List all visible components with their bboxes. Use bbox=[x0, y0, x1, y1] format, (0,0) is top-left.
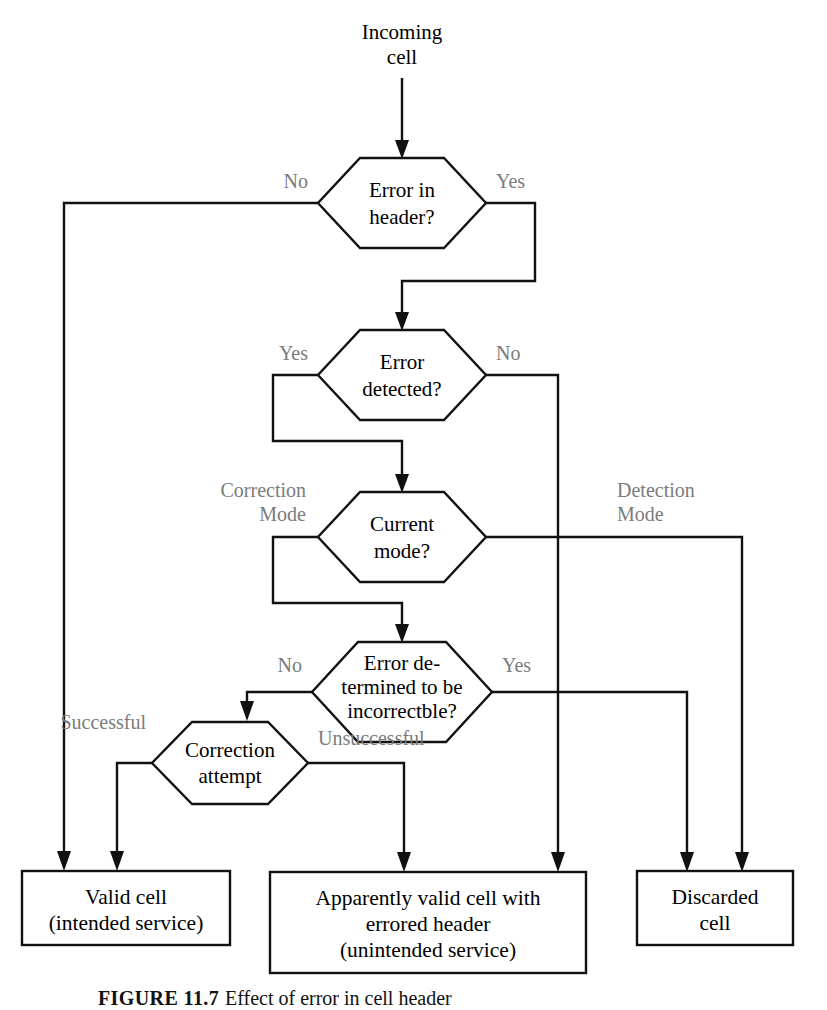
connector-d5-successful-to-valid bbox=[117, 763, 152, 857]
figure-caption-label: FIGURE 11.7 bbox=[98, 988, 219, 1009]
connector-d4-yes-to-discarded bbox=[492, 692, 687, 858]
decision-error-in-header-line2: header? bbox=[369, 205, 434, 229]
decision-error-in-header[interactable] bbox=[318, 158, 486, 248]
decision-correction-attempt-line2: attempt bbox=[199, 764, 262, 788]
figure-caption: FIGURE 11.7 Effect of error in cell head… bbox=[0, 988, 827, 1010]
decision-error-detected-line1: Error bbox=[380, 350, 424, 374]
arrowhead-d5-unsuccessful-to-apparent bbox=[397, 852, 411, 872]
edge-label-d5-successful: Successful bbox=[60, 711, 146, 733]
terminal-valid-cell-line2: (intended service) bbox=[49, 911, 204, 935]
figure-caption-description: Effect of error in cell header bbox=[225, 988, 452, 1009]
arrowhead-d5-successful-to-valid bbox=[110, 851, 124, 871]
arrowhead-d4-yes-to-discarded bbox=[680, 852, 694, 872]
terminal-apparently-valid-cell-line3: (unintended service) bbox=[340, 938, 516, 962]
decision-error-detected[interactable] bbox=[318, 330, 486, 420]
arrowhead-d3-detection-to-discarded bbox=[735, 852, 749, 872]
decision-correction-attempt-line1: Correction bbox=[185, 738, 275, 762]
decision-error-detected-line2: detected? bbox=[362, 377, 441, 401]
edge-label-d3-correction-line2: Mode bbox=[259, 503, 306, 525]
arrowhead-d2-no-to-apparent bbox=[551, 852, 565, 872]
edge-label-d1-no: No bbox=[284, 170, 308, 192]
start-label-line1: Incoming bbox=[362, 20, 443, 44]
edge-label-d2-yes: Yes bbox=[279, 342, 308, 364]
terminal-discarded-cell-line2: cell bbox=[699, 911, 730, 935]
decision-current-mode[interactable] bbox=[318, 492, 486, 582]
decision-error-in-header-line1: Error in bbox=[369, 178, 435, 202]
arrowhead-d3-correction-to-d4 bbox=[395, 624, 409, 643]
decision-error-incorrectble-line1: Error de- bbox=[364, 651, 440, 675]
edge-label-d4-no: No bbox=[278, 654, 302, 676]
decision-current-mode-line1: Current bbox=[370, 512, 434, 536]
flowchart-diagram: Incoming cell Error in header? No Yes Er… bbox=[0, 0, 827, 1010]
terminal-discarded-cell-line1: Discarded bbox=[671, 885, 758, 909]
edge-label-d4-yes: Yes bbox=[502, 654, 531, 676]
arrowhead-d1-yes-to-d2 bbox=[395, 312, 409, 331]
figure-caption-clip: FIGURE 11.7 Effect of error in cell head… bbox=[0, 988, 827, 1010]
edge-label-d1-yes: Yes bbox=[496, 170, 525, 192]
decision-error-incorrectble-line2: termined to be bbox=[341, 675, 462, 699]
start-label-line2: cell bbox=[387, 45, 417, 69]
arrowhead-start-to-d1 bbox=[395, 140, 409, 159]
connector-d3-detection-to-discarded bbox=[486, 537, 742, 858]
connector-d5-unsuccessful-to-apparent bbox=[308, 763, 404, 858]
arrowhead-d1-no-to-valid bbox=[57, 851, 71, 871]
edge-label-d3-correction-line1: Correction bbox=[220, 479, 306, 501]
terminal-apparently-valid-cell-line2: errored header bbox=[366, 912, 491, 936]
terminal-apparently-valid-cell-line1: Apparently valid cell with bbox=[315, 886, 540, 910]
decision-correction-attempt[interactable] bbox=[152, 722, 308, 804]
edge-label-d3-detection-line1: Detection bbox=[617, 479, 695, 501]
arrowhead-d2-yes-to-d3 bbox=[395, 474, 409, 493]
connector-d2-no-to-apparent bbox=[486, 375, 558, 858]
edge-label-d2-no: No bbox=[496, 342, 520, 364]
terminal-valid-cell-line1: Valid cell bbox=[85, 885, 167, 909]
edge-label-d3-detection-line2: Mode bbox=[617, 503, 664, 525]
decision-current-mode-line2: mode? bbox=[374, 539, 430, 563]
figure-root: Incoming cell Error in header? No Yes Er… bbox=[0, 0, 827, 1010]
connector-d4-no-to-d5 bbox=[247, 692, 312, 707]
arrowhead-d4-no-to-d5 bbox=[240, 701, 254, 721]
edge-label-d5-unsuccessful: Unsuccessful bbox=[318, 727, 425, 749]
decision-error-incorrectble-line3: incorrectble? bbox=[347, 699, 457, 723]
